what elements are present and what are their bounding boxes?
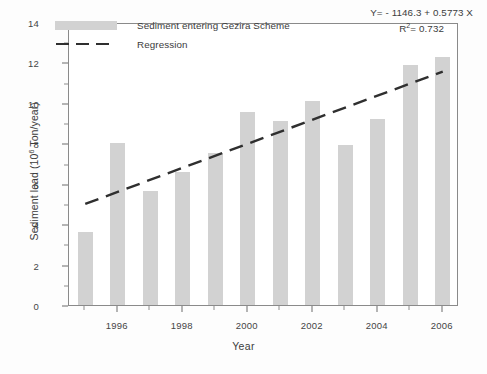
legend-dash-svg	[55, 39, 117, 49]
x-axis-tick-mark	[441, 306, 442, 312]
x-axis-minor-tick-mark	[149, 306, 150, 310]
bar	[208, 153, 223, 305]
y-axis-title-suffix: Ton/year)	[28, 102, 40, 150]
y-axis-title-exponent: 6	[28, 150, 35, 154]
r-squared-value: = 0.732	[410, 23, 444, 34]
bar	[240, 112, 255, 305]
x-axis-minor-tick-mark	[409, 306, 410, 310]
regression-trend-line	[85, 72, 443, 204]
bar	[110, 143, 125, 305]
x-axis-tick-label: 2006	[431, 320, 453, 331]
bar	[403, 65, 418, 305]
legend-item-label: Regression	[137, 39, 188, 50]
x-axis-tick-mark	[311, 306, 312, 312]
y-axis-tick-label: 12	[9, 58, 39, 69]
bar	[78, 232, 93, 305]
x-axis-minor-tick-mark	[84, 306, 85, 310]
legend-item-regression: Regression	[55, 36, 290, 52]
plot-area	[68, 23, 458, 306]
x-axis-minor-tick-mark	[344, 306, 345, 310]
x-axis-tick-label: 2002	[301, 320, 323, 331]
y-axis-tick-label: 14	[9, 18, 39, 29]
legend-item-sediment: Sediment entering Gezira Scheme	[55, 17, 290, 33]
bar	[143, 191, 158, 305]
chart-legend: Sediment entering Gezira Scheme Regressi…	[55, 17, 290, 55]
x-axis-minor-tick-mark	[214, 306, 215, 310]
x-axis-tick-mark	[376, 306, 377, 312]
legend-bar-swatch-icon	[55, 21, 117, 30]
regression-annotation: Y= - 1146.3 + 0.5773 X R2= 0.732	[370, 6, 473, 35]
bar	[435, 57, 450, 305]
regression-line	[69, 24, 459, 307]
bar	[175, 172, 190, 305]
x-axis-tick-mark	[116, 306, 117, 312]
regression-equation: Y= - 1146.3 + 0.5773 X	[370, 6, 473, 19]
y-axis-title-prefix: Sediment load (10	[28, 154, 40, 241]
bar	[305, 101, 320, 305]
legend-dashed-line-icon	[55, 39, 117, 49]
sediment-load-chart-figure: 02468101214 Sediment load (106 Ton/year)…	[0, 0, 487, 374]
x-axis-minor-tick-mark	[279, 306, 280, 310]
bar	[370, 119, 385, 305]
r-squared: R2= 0.732	[370, 19, 473, 35]
bar	[338, 145, 353, 305]
x-axis-tick-label: 2004	[366, 320, 388, 331]
x-axis-tick-mark	[181, 306, 182, 312]
y-axis-title: Sediment load (106 Ton/year)	[28, 71, 41, 271]
x-axis-tick-label: 2000	[236, 320, 258, 331]
legend-item-label: Sediment entering Gezira Scheme	[137, 20, 290, 31]
x-axis-tick-label: 1998	[171, 320, 193, 331]
x-axis-tick-mark	[246, 306, 247, 312]
x-axis-tick-label: 1996	[106, 320, 128, 331]
x-axis-title: Year	[0, 340, 487, 352]
bar	[273, 121, 288, 305]
